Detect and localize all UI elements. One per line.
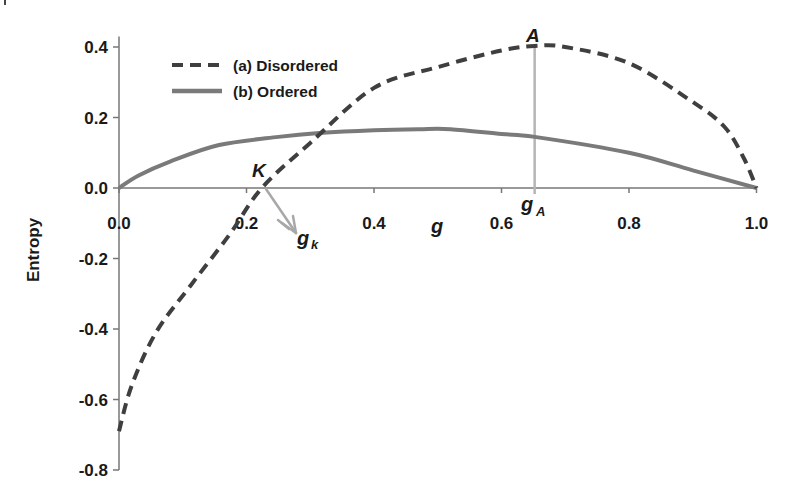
disordered-series-line (119, 45, 757, 431)
y-tick-label: -0.6 (79, 391, 108, 410)
x-tick-label: 0.4 (362, 214, 386, 233)
y-axis-title: Entropy (24, 217, 43, 282)
legend-disordered-label: (a) Disordered (233, 57, 338, 74)
y-tick-label: 0.2 (84, 109, 108, 128)
legend-ordered-label: (b) Ordered (233, 83, 317, 100)
entropy-chart: 0.40.20.0-0.2-0.4-0.6-0.80.00.20.40.60.8… (0, 0, 796, 501)
gk-label: g k (296, 227, 319, 252)
tick-labels: 0.40.20.0-0.2-0.4-0.6-0.80.00.20.40.60.8… (79, 38, 769, 480)
y-tick-label: -0.4 (79, 320, 109, 339)
x-tick-label: 1.0 (745, 214, 769, 233)
axes (113, 36, 757, 470)
gA-label-main: g (520, 193, 533, 215)
gA-label: g A (520, 193, 545, 219)
gk-label-sub: k (311, 237, 319, 252)
y-tick-label: 0.4 (84, 38, 108, 57)
x-axis-title: g (430, 215, 443, 237)
point-A-label: A (525, 25, 540, 46)
y-tick-label: -0.2 (79, 250, 108, 269)
point-K-label: K (252, 160, 267, 181)
gA-label-sub: A (535, 204, 545, 219)
ordered-series-line (119, 129, 757, 188)
legend: (a) Disordered (b) Ordered (172, 57, 338, 100)
k-arrow (266, 189, 296, 233)
x-tick-label: 0.8 (617, 214, 641, 233)
x-tick-label: 0.0 (107, 214, 131, 233)
y-tick-label: -0.8 (79, 461, 108, 480)
x-tick-label: 0.6 (490, 214, 514, 233)
y-tick-label: 0.0 (84, 179, 108, 198)
gk-label-main: g (296, 227, 309, 249)
